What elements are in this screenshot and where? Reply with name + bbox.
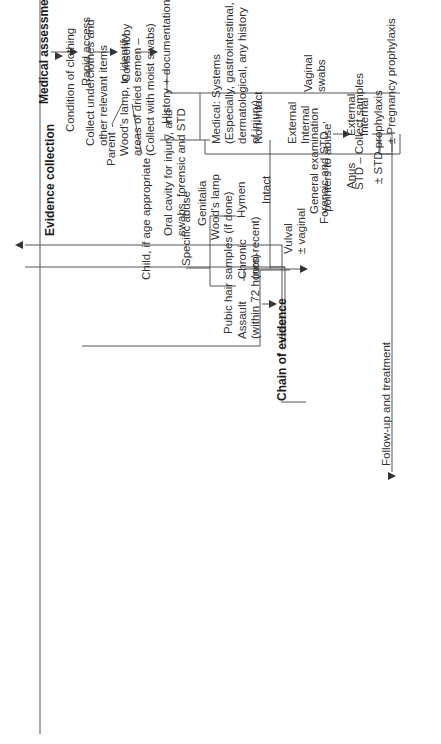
evidence-collection-title: Evidence collection xyxy=(44,124,57,236)
assault-node: Assault (within 72 hours) xyxy=(236,254,262,339)
non-intact-node: Non-intact xyxy=(252,92,265,144)
vaginal-external-internal-node: External Internal xyxy=(286,102,312,144)
follow-up-treatment-node: Follow-up and treatment xyxy=(380,342,393,466)
std-prophylaxis-node: ± STD prophylaxis xyxy=(372,90,385,184)
forensic-std-node: Forensic and STD xyxy=(318,131,331,224)
pubic-hair-node: Pubic hair samples (if done) xyxy=(222,191,235,334)
genitalia-node: Genitalia xyxy=(196,181,209,226)
woods-lamp-semen-node: Wood's lamp, to identify areas of dried … xyxy=(118,23,157,156)
vaginal-swabs-node: Vaginal swabs xyxy=(302,54,328,92)
flowchart-rotated: Medical assessment Rapid access Consent … xyxy=(0,0,441,744)
child-node: Child, if age appropriate xyxy=(140,158,153,280)
anus-external-internal-node: External Internal xyxy=(345,94,371,136)
oral-cavity-node: Oral cavity for injury, and swabs, foren… xyxy=(162,108,188,236)
vulval-vaginal-node: Vulval ± vaginal xyxy=(282,208,308,254)
pregnancy-prophylaxis-node: ± Pregnancy prophylaxis xyxy=(385,18,398,144)
woods-lamp-node: Wood's lamp xyxy=(209,174,222,240)
intact-node: Intact xyxy=(260,176,273,204)
chain-of-evidence-node: Chain of evidence xyxy=(276,298,289,401)
hymen-node: Hymen xyxy=(235,182,248,218)
anus-node: Anus xyxy=(345,163,358,189)
condition-of-clothing-node: Condition of clothing xyxy=(64,28,77,132)
medical-assessment-title: Medical assessment xyxy=(38,0,51,104)
collect-underclothes-node: Collect underclothes and other relevant … xyxy=(84,19,110,146)
history-documentation-node: History + documentation xyxy=(160,0,173,124)
